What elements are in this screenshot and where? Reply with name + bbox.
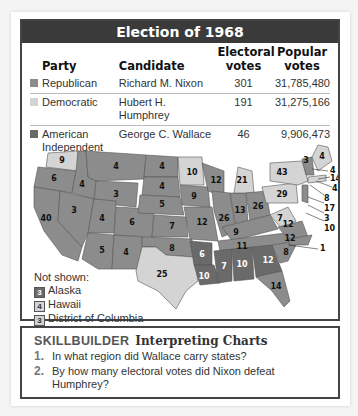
svg-text:12: 12 [282,220,293,229]
electoral-cell: 301 [218,75,270,94]
svg-text:17: 17 [324,204,335,213]
table-row: Republican Richard M. Nixon 301 31,785,4… [30,75,330,94]
legend-item-dc: 3District of Columbia [34,312,143,326]
svg-text:4: 4 [123,248,129,257]
democratic-swatch [30,98,38,106]
legend-heading: Not shown: [34,271,143,284]
legend-item-alaska: 3Alaska [34,284,143,298]
header-popular: Popular votes [270,45,331,75]
popular-cell: 31,275,166 [270,94,331,126]
svg-text:12: 12 [284,234,295,243]
svg-text:12: 12 [196,218,207,227]
electoral-cell: 191 [218,94,270,126]
svg-text:6: 6 [51,174,57,183]
panel-title: Election of 1968 [22,21,338,43]
candidate-cell: Hubert H. Humphrey [119,94,218,126]
svg-text:7: 7 [169,222,175,231]
svg-text:8: 8 [324,194,330,203]
svg-text:12: 12 [262,256,273,265]
svg-text:10: 10 [324,224,336,233]
party-cell: Democratic [30,94,119,126]
svg-text:11: 11 [236,242,248,251]
american-independent-swatch [30,130,38,138]
republican-swatch [30,79,38,87]
svg-text:3: 3 [71,206,77,215]
svg-text:9: 9 [233,228,239,237]
svg-text:14: 14 [270,282,282,291]
svg-text:5: 5 [99,246,105,255]
svg-text:4: 4 [79,180,85,189]
skillbuilder-title: SKILLBUILDERInterpreting Charts [34,334,268,348]
svg-text:26: 26 [252,202,264,211]
svg-text:10: 10 [198,272,210,281]
svg-text:43: 43 [276,168,287,177]
svg-text:25: 25 [156,270,168,279]
svg-text:1: 1 [320,244,326,253]
svg-text:10: 10 [186,168,198,177]
election-panel: Election of 1968 Party Candidate Elector… [20,19,340,321]
svg-text:4: 4 [319,152,325,161]
table-row: Democratic Hubert H. Humphrey 191 31,275… [30,94,330,126]
svg-text:21: 21 [236,176,248,185]
svg-text:4: 4 [113,162,119,171]
legend-item-hawaii: 4Hawaii [34,298,143,312]
svg-text:4: 4 [159,182,165,191]
question-2: 2.By how many electoral votes did Nixon … [34,365,324,391]
not-shown-legend: Not shown: 3Alaska 4Hawaii 3District of … [34,271,143,326]
svg-text:26: 26 [218,214,230,223]
svg-text:40: 40 [40,214,52,223]
svg-text:10: 10 [236,260,248,269]
svg-text:3: 3 [113,190,119,199]
svg-text:3: 3 [303,156,309,165]
svg-text:7: 7 [277,214,283,223]
svg-text:29: 29 [276,190,288,199]
svg-text:9: 9 [59,156,65,165]
svg-text:5: 5 [159,200,165,209]
svg-text:3: 3 [324,214,330,223]
svg-text:14: 14 [330,174,338,183]
svg-text:4: 4 [99,214,105,223]
party-cell: Republican [30,75,119,94]
svg-text:9: 9 [191,192,197,201]
svg-text:4: 4 [332,184,338,193]
svg-text:6: 6 [129,218,135,227]
header-candidate: Candidate [119,45,218,75]
candidate-cell: Richard M. Nixon [119,75,218,94]
header-party: Party [30,45,119,75]
popular-cell: 31,785,480 [270,75,331,94]
svg-text:6: 6 [199,250,205,259]
svg-text:12: 12 [210,176,221,185]
svg-text:4: 4 [159,162,165,171]
svg-text:13: 13 [234,206,245,215]
svg-text:8: 8 [169,244,175,253]
svg-text:8: 8 [283,248,289,257]
svg-text:7: 7 [221,262,227,271]
header-electoral: Electoral votes [218,45,270,75]
question-1: 1.In what region did Wallace carry state… [34,350,324,363]
skillbuilder-box: SKILLBUILDERInterpreting Charts 1.In wha… [20,326,340,399]
